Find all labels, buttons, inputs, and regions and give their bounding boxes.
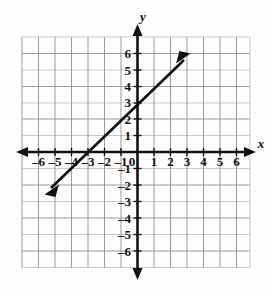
x-axis-label: x	[257, 136, 265, 151]
y-axis-label: y	[138, 9, 146, 24]
y-tick-label-6: 6	[125, 46, 132, 61]
x-axis-tick-labels: –6 –5 –4 –3 –2 –1 0 1 2 3 4 5 6	[31, 154, 240, 169]
y-tick-label-5: 5	[125, 63, 132, 78]
x-tick-label-4: 4	[200, 154, 207, 169]
x-tick-label-neg2: –2	[97, 154, 111, 169]
y-tick-label-neg4: –4	[117, 211, 132, 226]
x-tick-label-2: 2	[167, 154, 174, 169]
y-tick-label-neg1: –1	[117, 161, 131, 176]
graph-canvas: –6 –5 –4 –3 –2 –1 0 1 2 3 4 5 6 1 2 3 4 …	[0, 0, 273, 290]
x-tick-label-6: 6	[233, 154, 240, 169]
y-axis-tick-labels-positive: 1 2 3 4 5 6	[125, 46, 132, 143]
y-tick-label-1: 1	[125, 128, 132, 143]
x-tick-label-neg6: –6	[31, 154, 46, 169]
x-tick-label-1: 1	[151, 154, 158, 169]
y-tick-label-neg3: –3	[117, 194, 132, 209]
x-tick-label-neg5: –5	[48, 154, 63, 169]
y-tick-label-neg6: –6	[117, 244, 132, 259]
y-tick-label-neg5: –5	[117, 227, 132, 242]
x-tick-label-5: 5	[217, 154, 224, 169]
coordinate-plane-graph: –6 –5 –4 –3 –2 –1 0 1 2 3 4 5 6 1 2 3 4 …	[0, 0, 273, 290]
y-tick-label-3: 3	[125, 95, 132, 110]
y-tick-label-4: 4	[125, 79, 132, 94]
x-tick-label-3: 3	[184, 154, 191, 169]
y-tick-label-neg2: –2	[117, 178, 131, 193]
y-axis-tick-labels-negative: –1 –2 –3 –4 –5 –6	[117, 161, 132, 259]
